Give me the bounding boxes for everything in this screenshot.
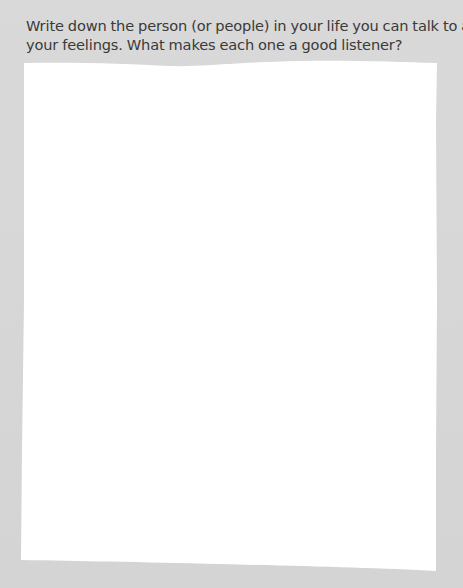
answer-textarea[interactable] <box>30 70 430 555</box>
